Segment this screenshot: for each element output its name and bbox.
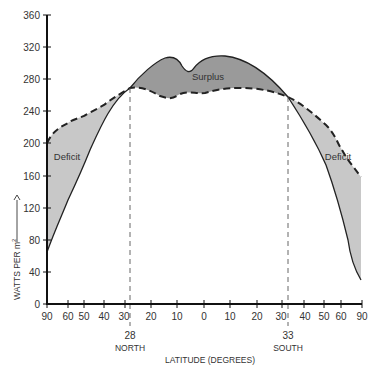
svg-text:320: 320 xyxy=(23,42,40,53)
svg-text:20: 20 xyxy=(251,311,263,322)
svg-text:50: 50 xyxy=(78,311,90,322)
svg-text:90: 90 xyxy=(41,311,53,322)
svg-text:20: 20 xyxy=(145,311,157,322)
north-label: NORTH xyxy=(115,343,145,353)
svg-text:120: 120 xyxy=(23,203,40,214)
y-axis-superscript: 2 xyxy=(11,238,17,242)
deficit-label-south: Deficit xyxy=(325,151,352,162)
svg-text:10: 10 xyxy=(224,311,236,322)
south-label: SOUTH xyxy=(273,343,303,353)
svg-text:360: 360 xyxy=(23,10,40,21)
svg-text:200: 200 xyxy=(23,138,40,149)
svg-text:30: 30 xyxy=(118,311,130,322)
deficit-area-north xyxy=(47,88,130,252)
svg-text:60: 60 xyxy=(62,311,74,322)
y-tick-labels: 0 40 80 120 160 200 240 280 320 360 xyxy=(23,10,40,310)
svg-text:WATTS PER m2: WATTS PER m2 xyxy=(11,238,22,300)
svg-text:0: 0 xyxy=(34,299,40,310)
svg-text:80: 80 xyxy=(29,235,41,246)
north-latitude-value: 28 xyxy=(124,330,136,341)
y-axis-title: WATTS PER m xyxy=(12,242,22,300)
svg-text:90: 90 xyxy=(356,311,368,322)
svg-text:10: 10 xyxy=(171,311,183,322)
svg-text:40: 40 xyxy=(299,311,311,322)
svg-text:280: 280 xyxy=(23,74,40,85)
svg-text:30: 30 xyxy=(275,311,287,322)
svg-text:240: 240 xyxy=(23,106,40,117)
svg-text:40: 40 xyxy=(29,267,41,278)
x-axis-title: LATITUDE (DEGREES) xyxy=(165,355,255,365)
x-tick-labels: 90 60 50 40 30 20 10 0 10 20 30 40 50 60… xyxy=(41,311,368,322)
svg-text:40: 40 xyxy=(98,311,110,322)
radiation-balance-chart: 0 40 80 120 160 200 240 280 320 360 90 6… xyxy=(0,0,383,370)
svg-text:0: 0 xyxy=(201,311,207,322)
surplus-label: Surplus xyxy=(192,71,224,82)
deficit-label-north: Deficit xyxy=(54,151,81,162)
up-arrow-icon xyxy=(14,195,20,200)
svg-text:160: 160 xyxy=(23,171,40,182)
svg-text:60: 60 xyxy=(335,311,347,322)
south-latitude-value: 33 xyxy=(282,330,294,341)
svg-text:50: 50 xyxy=(318,311,330,322)
y-axis-title-group: WATTS PER m2 xyxy=(11,195,22,300)
